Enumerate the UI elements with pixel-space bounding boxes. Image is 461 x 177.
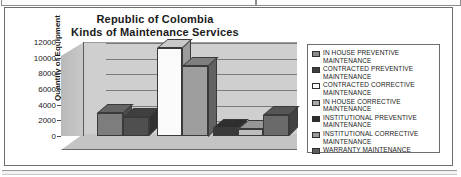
bar-contracted-preventive[interactable] xyxy=(123,117,149,136)
plot-area: Quantity of Equipment 12000 10000 8000 6… xyxy=(61,42,297,150)
plot-floor xyxy=(61,134,297,150)
legend-swatch-icon xyxy=(312,132,320,138)
y-tick-mark xyxy=(57,120,61,121)
scan-artifact-segment-right xyxy=(256,0,461,6)
y-tick-mark xyxy=(57,89,61,90)
legend-item-label: CONTRACTED CORRECTIVE MAINTENANCE xyxy=(323,81,415,96)
legend-item-label: WARRANTY MAINTENANCE xyxy=(323,146,411,154)
legend-item-label: IN HOUSE CORRECTIVE MAINTENANCE xyxy=(323,98,401,113)
legend-swatch-icon xyxy=(312,100,320,106)
legend-item-institutional-corrective[interactable]: INSTITUTIONAL CORRECTIVE MAINTENANCE xyxy=(312,130,436,145)
legend-swatch-icon xyxy=(312,67,320,73)
legend-item-contracted-preventive[interactable]: CONTRACTED PREVENTIVE MAINTENANCE xyxy=(312,65,436,80)
bar-front-face xyxy=(97,113,123,136)
legend-item-label: INSTITUTIONAL CORRECTIVE MAINTENANCE xyxy=(323,130,418,145)
bar-warranty-maintenance[interactable] xyxy=(263,115,289,136)
y-tick-mark xyxy=(57,42,61,43)
scan-artifact-bottom-strip xyxy=(2,170,457,175)
bar-front-face xyxy=(182,66,208,137)
chart-legend: IN HOUSE PREVENTIVE MAINTENANCE CONTRACT… xyxy=(307,44,440,153)
y-tick-mark xyxy=(57,105,61,106)
y-tick-label-2000: 2000 xyxy=(38,116,56,125)
bar-contracted-corrective[interactable] xyxy=(157,48,182,136)
y-tick-label-8000: 8000 xyxy=(38,69,56,78)
legend-item-warranty-maintenance[interactable]: WARRANTY MAINTENANCE xyxy=(312,146,436,154)
legend-swatch-icon xyxy=(312,51,320,57)
legend-item-institutional-preventive[interactable]: INSTITUTIONAL PREVENTIVE MAINTENANCE xyxy=(312,114,436,129)
y-tick-mark xyxy=(57,58,61,59)
legend-item-contracted-corrective[interactable]: CONTRACTED CORRECTIVE MAINTENANCE xyxy=(312,81,436,96)
legend-item-label: IN HOUSE PREVENTIVE MAINTENANCE xyxy=(323,49,399,64)
chart-figure-frame: Republic of Colombia Kinds of Maintenanc… xyxy=(4,7,453,166)
bar-front-face xyxy=(263,115,289,136)
y-tick-label-6000: 6000 xyxy=(38,85,56,94)
chart-title-line-1: Republic of Colombia xyxy=(96,13,213,25)
gridline xyxy=(106,43,297,44)
legend-item-in-house-preventive[interactable]: IN HOUSE PREVENTIVE MAINTENANCE xyxy=(312,49,436,64)
y-tick-mark xyxy=(57,136,61,137)
y-tick-label-4000: 4000 xyxy=(38,100,56,109)
legend-swatch-icon xyxy=(312,116,320,122)
y-tick-label-12000: 12000 xyxy=(34,38,56,47)
bar-front-face xyxy=(238,129,263,136)
bar-front-face xyxy=(213,128,238,136)
y-tick-label-0: 0 xyxy=(52,132,56,141)
bar-in-house-corrective[interactable] xyxy=(182,66,208,137)
y-tick-mark xyxy=(57,73,61,74)
legend-item-in-house-corrective[interactable]: IN HOUSE CORRECTIVE MAINTENANCE xyxy=(312,98,436,113)
bar-front-face xyxy=(157,48,182,136)
y-axis-line xyxy=(83,42,84,136)
legend-swatch-icon xyxy=(312,148,320,154)
bar-front-face xyxy=(123,117,149,136)
plot-side-wall xyxy=(61,42,84,136)
bar-institutional-corrective[interactable] xyxy=(238,129,263,136)
legend-swatch-icon xyxy=(312,83,320,89)
bar-institutional-preventive[interactable] xyxy=(213,128,238,136)
y-tick-label-10000: 10000 xyxy=(34,53,56,62)
legend-item-label: CONTRACTED PREVENTIVE MAINTENANCE xyxy=(323,65,413,80)
bar-in-house-preventive[interactable] xyxy=(97,113,123,136)
scan-artifact-segment-left xyxy=(1,0,256,6)
legend-item-label: INSTITUTIONAL PREVENTIVE MAINTENANCE xyxy=(323,114,417,129)
chart-title: Republic of Colombia Kinds of Maintenanc… xyxy=(5,13,305,39)
scan-artifact-top-strip xyxy=(0,0,461,6)
